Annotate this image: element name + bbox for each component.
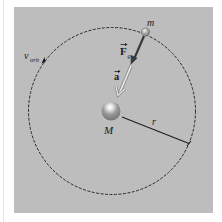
svg-text:orb: orb: [30, 56, 40, 63]
large-mass-sphere: [102, 102, 121, 121]
velocity-arrowhead-icon: [42, 57, 46, 64]
force-label: F g: [120, 43, 132, 59]
orbital-velocity-label: v orb: [24, 50, 40, 63]
small-mass-sphere: [141, 28, 149, 36]
gravitational-force-arrow: [131, 36, 145, 65]
acceleration-label: a: [114, 70, 121, 82]
radius-label: r: [152, 116, 156, 127]
svg-text:a: a: [114, 71, 120, 82]
svg-text:F: F: [120, 45, 127, 57]
orbit-diagram: m M r F g a v orb: [0, 0, 222, 222]
large-mass-label: M: [103, 124, 114, 136]
svg-text:v: v: [24, 50, 29, 61]
small-mass-label: m: [147, 17, 154, 28]
